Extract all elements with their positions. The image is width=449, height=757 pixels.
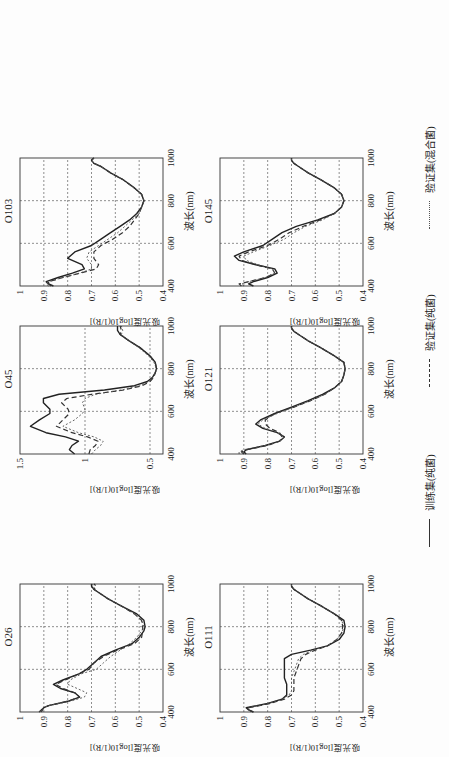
svg-text:0.7: 0.7: [87, 290, 97, 302]
svg-text:0.8: 0.8: [263, 290, 273, 302]
svg-text:1: 1: [215, 716, 225, 721]
y-axis-label: 吸光度[log10(1/R)]: [90, 317, 160, 329]
plot-area: 40060080010000.40.50.60.70.80.91: [200, 542, 400, 757]
panel-o145: O145 40060080010000.40.50.60.70.80.91 波长…: [200, 116, 400, 331]
svg-text:800: 800: [166, 193, 176, 207]
svg-text:0.7: 0.7: [87, 716, 97, 728]
legend-label: 验证集(混合菌): [422, 126, 437, 193]
svg-text:0.8: 0.8: [263, 458, 273, 470]
series-line: [46, 158, 144, 286]
svg-text:1: 1: [15, 290, 25, 295]
svg-text:800: 800: [366, 361, 376, 375]
panel-o111: O111 40060080010000.40.50.60.70.80.91 波长…: [200, 542, 400, 757]
svg-text:0.4: 0.4: [358, 716, 368, 728]
svg-text:0.5: 0.5: [334, 716, 344, 728]
series-line: [41, 584, 142, 712]
svg-text:0.5: 0.5: [134, 290, 144, 302]
svg-text:400: 400: [166, 447, 176, 461]
svg-text:0.9: 0.9: [239, 458, 249, 470]
y-axis-label: 吸光度[log10(1/R)]: [90, 743, 160, 755]
svg-text:1: 1: [215, 458, 225, 463]
svg-text:0.6: 0.6: [310, 716, 320, 728]
y-axis-label: 吸光度[log10(1/R)]: [290, 743, 360, 755]
svg-text:1000: 1000: [366, 575, 376, 594]
series-line: [246, 584, 345, 712]
svg-text:800: 800: [166, 361, 176, 375]
svg-text:0.9: 0.9: [39, 290, 49, 302]
svg-text:0.4: 0.4: [158, 290, 168, 302]
series-line: [234, 158, 344, 286]
figure-canvas: O26 40060080010000.40.50.60.70.80.91 波长(…: [0, 0, 449, 757]
panel-o26: O26 40060080010000.40.50.60.70.80.91 波长(…: [0, 542, 200, 757]
svg-text:600: 600: [366, 404, 376, 418]
svg-text:0.5: 0.5: [334, 458, 344, 470]
svg-text:0.9: 0.9: [39, 716, 49, 728]
y-axis-label: 吸光度[log10(1/R)]: [290, 485, 360, 497]
svg-text:0.5: 0.5: [134, 716, 144, 728]
svg-text:800: 800: [366, 619, 376, 633]
series-line: [244, 326, 345, 454]
legend-item-train-pure: 训练集(纯菌): [422, 454, 437, 547]
legend-label: 训练集(纯菌): [422, 454, 437, 511]
svg-text:600: 600: [166, 404, 176, 418]
svg-text:0.9: 0.9: [239, 716, 249, 728]
svg-text:1000: 1000: [166, 149, 176, 168]
legend-item-valid-mixed: 验证集(混合菌): [422, 126, 437, 229]
svg-text:0.6: 0.6: [110, 290, 120, 302]
svg-text:1000: 1000: [366, 149, 376, 168]
svg-text:600: 600: [366, 236, 376, 250]
svg-text:1: 1: [80, 458, 90, 463]
svg-text:0.4: 0.4: [158, 716, 168, 728]
svg-text:800: 800: [366, 193, 376, 207]
svg-text:0.5: 0.5: [145, 458, 155, 470]
x-axis-label: 波长(nm): [381, 136, 396, 286]
panel-o103: O103 40060080010000.40.50.60.70.80.91 波长…: [0, 116, 200, 331]
svg-text:600: 600: [366, 662, 376, 676]
svg-text:800: 800: [166, 619, 176, 633]
svg-text:0.6: 0.6: [310, 458, 320, 470]
legend-item-valid-pure: 验证集(纯菌): [422, 294, 437, 387]
svg-text:0.5: 0.5: [334, 290, 344, 302]
legend-label: 验证集(纯菌): [422, 294, 437, 351]
x-axis-label: 波长(nm): [381, 562, 396, 712]
svg-text:0.7: 0.7: [287, 716, 297, 728]
svg-text:0.9: 0.9: [239, 290, 249, 302]
svg-text:0.8: 0.8: [63, 290, 73, 302]
dashed-line-icon: [429, 359, 430, 387]
svg-text:1000: 1000: [166, 575, 176, 594]
y-axis-label: 吸光度[log10(1/R)]: [90, 485, 160, 497]
svg-text:0.7: 0.7: [287, 290, 297, 302]
plot-area: 40060080010000.40.50.60.70.80.91: [200, 116, 400, 331]
legend: 训练集(纯菌) 验证集(纯菌) 验证集(混合菌): [418, 0, 442, 757]
series-line: [241, 158, 344, 286]
x-axis-label: 波长(nm): [181, 136, 196, 286]
series-line: [39, 584, 145, 712]
svg-text:1.5: 1.5: [15, 458, 25, 470]
x-axis-label: 波长(nm): [181, 562, 196, 712]
series-line: [30, 326, 156, 454]
svg-text:0.8: 0.8: [63, 716, 73, 728]
svg-text:1: 1: [15, 716, 25, 721]
svg-text:0.6: 0.6: [110, 716, 120, 728]
solid-line-icon: [429, 519, 430, 547]
svg-text:0.4: 0.4: [358, 290, 368, 302]
svg-text:0.7: 0.7: [287, 458, 297, 470]
svg-text:0.4: 0.4: [358, 458, 368, 470]
svg-text:0.8: 0.8: [263, 716, 273, 728]
svg-text:1: 1: [215, 290, 225, 295]
series-line: [249, 584, 343, 712]
series-line: [63, 326, 157, 454]
series-line: [249, 584, 344, 712]
svg-text:600: 600: [166, 662, 176, 676]
y-axis-label: 吸光度[log10(1/R)]: [290, 317, 360, 329]
svg-text:0.6: 0.6: [310, 290, 320, 302]
plot-area: 40060080010000.40.50.60.70.80.91: [0, 542, 200, 757]
dotted-line-icon: [429, 201, 430, 229]
plot-area: 40060080010000.40.50.60.70.80.91: [0, 116, 200, 331]
svg-text:600: 600: [166, 236, 176, 250]
